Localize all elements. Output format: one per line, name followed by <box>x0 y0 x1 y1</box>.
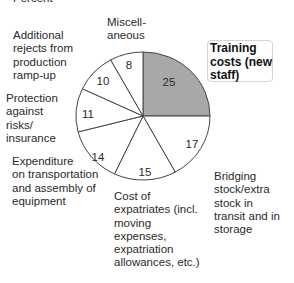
value-bridging: 17 <box>186 138 199 150</box>
label-expatriates: Cost of expatriates (incl. moving expens… <box>114 190 200 270</box>
value-rejects: 10 <box>97 75 110 87</box>
label-rejects: Additional rejects from production ramp-… <box>13 29 73 82</box>
value-misc: 8 <box>126 59 132 71</box>
pie-slice <box>143 52 210 116</box>
label-expenditure: Expenditure on transportation and assemb… <box>12 155 98 208</box>
label-protection: Protection against risks/ insurance <box>6 92 58 145</box>
label-training: Training costs (new staff) <box>207 40 273 82</box>
value-expatriates: 15 <box>139 166 152 178</box>
label-misc: Miscell- aneous <box>107 16 146 43</box>
value-training: 25 <box>163 76 176 88</box>
label-bridging: Bridging stock/extra stock in transit an… <box>214 170 280 236</box>
value-protection: 11 <box>82 108 94 120</box>
